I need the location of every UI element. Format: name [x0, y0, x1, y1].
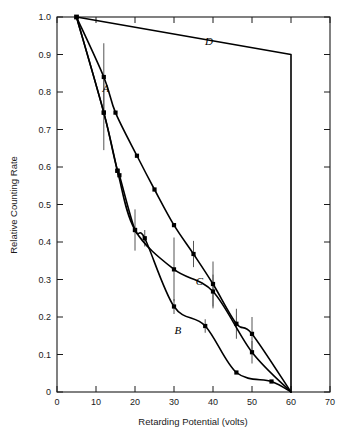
y-tick-label: 0 [46, 387, 51, 397]
y-tick-label: 0.5 [38, 200, 51, 210]
x-tick-label: 50 [247, 397, 257, 407]
data-marker [211, 289, 215, 293]
data-marker [133, 228, 137, 232]
data-marker [152, 187, 156, 191]
x-tick-label: 20 [130, 397, 140, 407]
curve-label-d: D [204, 35, 213, 47]
x-tick-label: 40 [208, 397, 218, 407]
y-tick-label: 0.6 [38, 162, 51, 172]
data-marker [211, 282, 215, 286]
y-tick-label: 0.2 [38, 312, 51, 322]
x-axis-title: Retarding Potential (volts) [138, 416, 247, 427]
y-tick-label: 0.3 [38, 275, 51, 285]
data-marker [191, 252, 195, 256]
data-marker [135, 154, 139, 158]
y-tick-label: 0.4 [38, 237, 51, 247]
chart-background [0, 0, 350, 437]
data-marker [172, 267, 176, 271]
x-tick-label: 60 [286, 397, 296, 407]
data-marker [250, 332, 254, 336]
curve-label-a: A [101, 82, 109, 94]
curve-label-b: B [175, 324, 182, 336]
data-marker [143, 236, 147, 240]
data-marker [234, 322, 238, 326]
y-tick-label: 0.9 [38, 50, 51, 60]
x-tick-label: 30 [169, 397, 179, 407]
y-axis-title: Relative Counting Rate [8, 156, 19, 254]
y-tick-label: 1.0 [38, 12, 51, 22]
apex-marker [74, 15, 79, 20]
y-tick-label: 0.7 [38, 125, 51, 135]
data-marker [102, 75, 106, 79]
figure-container: 010203040506070 00.10.20.30.40.50.60.70.… [0, 0, 350, 437]
data-marker [115, 169, 119, 173]
y-tick-label: 0.8 [38, 87, 51, 97]
data-marker [113, 111, 117, 115]
data-marker [102, 111, 106, 115]
data-marker [117, 173, 121, 177]
y-tick-label: 0.1 [38, 350, 51, 360]
chart-plot: 010203040506070 00.10.20.30.40.50.60.70.… [0, 0, 350, 437]
data-marker [234, 370, 238, 374]
x-tick-label: 0 [54, 397, 59, 407]
data-marker [172, 304, 176, 308]
data-marker [269, 379, 273, 383]
data-marker [250, 350, 254, 354]
curve-label-c: C [196, 275, 204, 287]
x-tick-label: 10 [91, 397, 101, 407]
x-tick-label: 70 [325, 397, 335, 407]
data-marker [172, 223, 176, 227]
data-marker [203, 324, 207, 328]
